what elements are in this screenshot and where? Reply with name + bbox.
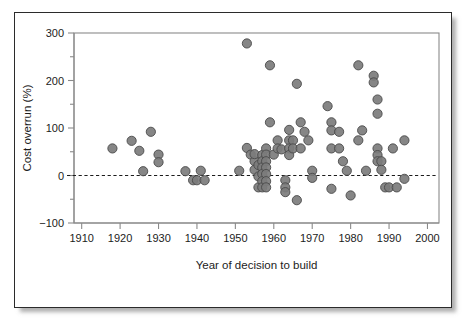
data-point [196, 166, 205, 175]
data-point [358, 126, 367, 135]
x-tick-label: 1970 [300, 232, 324, 244]
data-point [338, 157, 347, 166]
chart-svg: −1000100200300 1910192019301940195019601… [15, 13, 453, 309]
data-point [296, 118, 305, 127]
data-point [308, 173, 317, 182]
data-point [281, 188, 290, 197]
x-axis-title: Year of decision to build [196, 259, 318, 271]
data-point [369, 78, 378, 87]
data-point [373, 109, 382, 118]
figure-frame: −1000100200300 1910192019301940195019601… [14, 12, 452, 308]
x-tick-label: 1910 [69, 232, 93, 244]
x-tick-label: 1940 [185, 232, 209, 244]
data-point [108, 144, 117, 153]
data-point [335, 127, 344, 136]
x-tick-label: 1930 [146, 232, 170, 244]
data-point [354, 136, 363, 145]
y-axis-title: Cost overrun (%) [21, 84, 33, 171]
data-point [127, 136, 136, 145]
y-tick-label: 0 [58, 170, 64, 182]
data-point [154, 158, 163, 167]
x-tick-label: 1960 [262, 232, 286, 244]
data-point [300, 127, 309, 136]
data-point [139, 167, 148, 176]
data-point [146, 127, 155, 136]
data-point [327, 184, 336, 193]
y-tick-label: 100 [46, 122, 64, 134]
x-tick-label: 1990 [377, 232, 401, 244]
data-point [181, 167, 190, 176]
data-point [292, 196, 301, 205]
data-point-layer [108, 39, 409, 205]
data-point [265, 118, 274, 127]
data-point [285, 125, 294, 134]
data-point [354, 61, 363, 70]
data-point [335, 144, 344, 153]
figure-root: −1000100200300 1910192019301940195019601… [0, 0, 472, 332]
data-point [292, 79, 301, 88]
plot-panel-border [74, 33, 439, 223]
data-point [373, 95, 382, 104]
data-point [346, 191, 355, 200]
y-tick-label: −100 [39, 217, 64, 229]
data-point [323, 102, 332, 111]
data-point [392, 183, 401, 192]
data-point [361, 166, 370, 175]
x-tick-label: 2000 [415, 232, 439, 244]
x-axis [74, 223, 439, 229]
data-point [304, 136, 313, 145]
data-point [235, 166, 244, 175]
data-point [388, 144, 397, 153]
data-point [242, 39, 251, 48]
y-tick-labels: −1000100200300 [39, 27, 64, 229]
data-point [265, 61, 274, 70]
data-point [200, 176, 209, 185]
y-tick-label: 300 [46, 27, 64, 39]
data-point [262, 183, 271, 192]
data-point [377, 165, 386, 174]
y-axis [68, 33, 74, 223]
data-point [400, 174, 409, 183]
x-tick-label: 1920 [108, 232, 132, 244]
data-point [377, 157, 386, 166]
data-point [296, 144, 305, 153]
y-tick-label: 200 [46, 75, 64, 87]
x-tick-labels: 1910192019301940195019601970198019902000 [69, 232, 439, 244]
x-tick-label: 1980 [338, 232, 362, 244]
x-tick-label: 1950 [223, 232, 247, 244]
data-point [400, 136, 409, 145]
scatter-plot: −1000100200300 1910192019301940195019601… [15, 13, 453, 309]
data-point [342, 166, 351, 175]
data-point [135, 146, 144, 155]
